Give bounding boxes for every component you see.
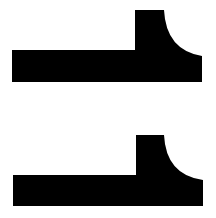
canvas: [0, 0, 216, 218]
profile-shape-top: [12, 10, 202, 82]
profile-shape-bottom: [13, 135, 203, 206]
